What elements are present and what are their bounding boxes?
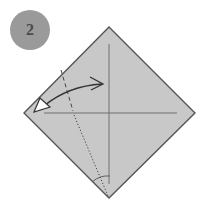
origami-diagram xyxy=(0,0,206,204)
paper-square-icon xyxy=(24,27,195,198)
